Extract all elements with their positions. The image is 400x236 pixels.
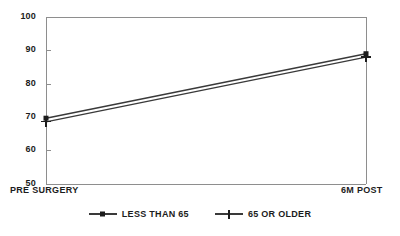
y-tick-label-90: 90 [8,45,36,54]
series-line [46,57,366,122]
x-tick-label-6m-post: 6M POST [341,186,383,195]
legend-label: 65 OR OLDER [248,209,311,219]
plus-marker-icon [41,117,51,127]
axis-frame [46,17,366,184]
plus-marker-icon [361,52,371,62]
y-tick-label-100: 100 [8,12,36,21]
x-tick-label-pre-surgery: PRE SURGERY [10,186,78,195]
chart-legend: LESS THAN 65 65 OR OLDER [0,209,400,219]
y-tick-label-70: 70 [8,112,36,121]
plot-area [0,0,400,236]
legend-item-less-than-65[interactable]: LESS THAN 65 [89,209,189,219]
y-tick-label-60: 60 [8,145,36,154]
legend-item-65-or-older[interactable]: 65 OR OLDER [215,209,311,219]
y-axis-ticks [46,50,51,150]
series-line [46,54,366,118]
series-less-than-65 [44,51,369,120]
y-tick-label-80: 80 [8,79,36,88]
square-marker-icon [89,209,117,219]
plus-marker-icon [215,209,243,219]
line-chart: 100 90 80 70 60 50 PRE SURGERY 6M POST L… [0,0,400,236]
legend-label: LESS THAN 65 [122,209,189,219]
